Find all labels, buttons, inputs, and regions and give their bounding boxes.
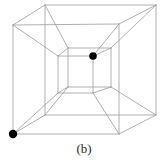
figure-caption: (b) (4, 141, 164, 157)
inner-front-top-right-vertex-dot (89, 52, 97, 60)
tesseract-wireframe-svg (0, 0, 164, 164)
hyper-edge-front (93, 24, 119, 56)
hyper-edge-back (111, 5, 156, 48)
outer-depth-edge (119, 5, 156, 24)
outer-depth-edge (13, 5, 45, 25)
inner-depth-edge (58, 48, 68, 56)
outer-depth-edge (13, 115, 45, 134)
hyper-edge-back (45, 87, 68, 115)
outer-front-edge (13, 24, 119, 25)
inner-depth-edge (93, 87, 111, 93)
hyper-edge-front (13, 93, 58, 134)
inner-depth-edge (58, 87, 68, 93)
outer-depth-edge (119, 115, 156, 134)
hyper-edge-front (13, 25, 58, 56)
hyper-edge-back (111, 87, 156, 115)
outer-front-bottom-left-vertex-dot (9, 130, 17, 138)
figure-panel: (b) (0, 0, 164, 164)
hyper-edge-front (93, 93, 119, 134)
hyper-edge-back (45, 5, 68, 48)
